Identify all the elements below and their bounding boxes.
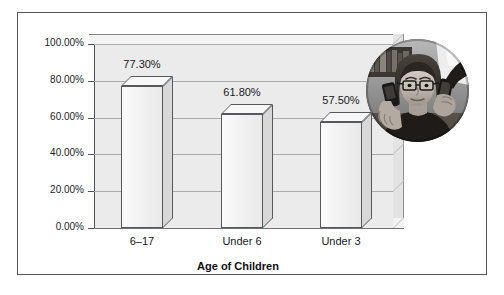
y-axis-tick-label: 20.00% bbox=[14, 185, 84, 195]
y-axis-tick-label: 100.00% bbox=[14, 38, 84, 48]
y-axis-tick-label: 40.00% bbox=[14, 148, 84, 158]
photo-image bbox=[366, 39, 469, 142]
figure-frame: 0.00%20.00%40.00%60.00%80.00%100.00% 77.… bbox=[17, 12, 487, 275]
y-axis-tick-label: 60.00% bbox=[14, 112, 84, 122]
figure-container: 0.00%20.00%40.00%60.00%80.00%100.00% 77.… bbox=[0, 0, 504, 295]
x-axis-category-label: 6–17 bbox=[99, 235, 185, 247]
y-axis-tick bbox=[88, 118, 94, 119]
bar-front-face bbox=[221, 114, 263, 228]
y-axis-tick bbox=[88, 191, 94, 192]
y-axis-tick bbox=[88, 154, 94, 155]
y-axis-tick-label: 80.00% bbox=[14, 75, 84, 85]
y-axis-tick-label: 0.00% bbox=[14, 222, 84, 232]
x-axis-title: Age of Children bbox=[18, 260, 458, 272]
woman-on-two-phones-photo bbox=[366, 39, 469, 142]
bar-side-face bbox=[163, 76, 173, 228]
bar-column bbox=[320, 122, 362, 228]
bar-value-label: 77.30% bbox=[103, 58, 181, 70]
bar-value-label: 61.80% bbox=[203, 86, 281, 98]
gridline bbox=[94, 44, 393, 45]
x-axis-category-label: Under 3 bbox=[298, 235, 384, 247]
y-axis-tick bbox=[88, 44, 94, 45]
bar-column bbox=[121, 86, 163, 228]
bar-column bbox=[221, 114, 263, 228]
bar-chart: 0.00%20.00%40.00%60.00%80.00%100.00% 77.… bbox=[18, 13, 488, 276]
bar-side-face bbox=[362, 112, 372, 228]
y-axis-line bbox=[94, 44, 95, 229]
x-axis-baseline bbox=[94, 228, 404, 229]
bar-front-face bbox=[320, 122, 362, 228]
bar-side-face bbox=[263, 104, 273, 228]
bar-front-face bbox=[121, 86, 163, 228]
y-axis-tick bbox=[88, 81, 94, 82]
x-axis-category-label: Under 6 bbox=[199, 235, 285, 247]
